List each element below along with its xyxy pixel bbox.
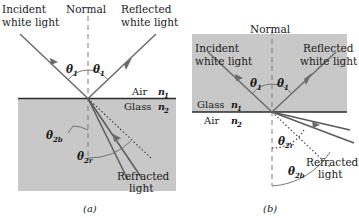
panel-b-lower-index-subscript: 2 — [236, 120, 242, 129]
panel-b: Incident white light Normal Reflected wh… — [192, 23, 359, 214]
panel-b-lower-medium-label: Air — [203, 115, 219, 126]
panel-a-lower-index-subscript: 2 — [163, 106, 169, 115]
panel-b-reflected-label-line1: Reflected — [303, 42, 354, 54]
panel-a-theta-incident-symbol: θ — [66, 63, 73, 75]
panel-b-refracted-label-line1: Refracted — [306, 156, 359, 168]
panel-b-refracted-label-line2: light — [318, 168, 343, 180]
panel-a: Incident white light Normal Reflected wh… — [2, 3, 179, 214]
panel-a-upper-index-subscript: 1 — [164, 91, 169, 100]
panel-b-theta-2r-symbol: θ — [278, 135, 285, 147]
panel-a-theta-2b-symbol: θ — [46, 129, 53, 141]
panel-b-upper-medium-label: Glass — [197, 99, 224, 110]
panel-a-incident-label-line2: white light — [2, 16, 60, 28]
panel-a-normal-label: Normal — [66, 3, 107, 15]
panel-a-theta-reflected-symbol: θ — [93, 63, 100, 75]
panel-b-normal-label: Normal — [250, 23, 291, 35]
panel-a-incident-label-line1: Incident — [2, 3, 47, 15]
panel-a-reflected-label-line2: white light — [121, 16, 179, 28]
panel-b-theta-reflected-symbol: θ — [277, 77, 284, 89]
panel-a-theta-2r-symbol: θ — [77, 150, 84, 162]
panel-a-incident-arrowhead — [50, 58, 58, 65]
panel-a-refracted-label-line2: light — [129, 182, 154, 194]
panel-a-theta-reflected-subscript: 1 — [100, 69, 105, 78]
figure-svg: Incident white light Normal Reflected wh… — [0, 0, 359, 218]
panel-b-theta-incident-subscript: 1 — [257, 83, 262, 92]
panel-b-theta-2b-symbol: θ — [288, 165, 295, 177]
panel-a-theta-incident-subscript: 1 — [73, 69, 78, 78]
optics-figure: Incident white light Normal Reflected wh… — [0, 0, 359, 218]
panel-b-theta-incident-symbol: θ — [250, 77, 257, 89]
panel-b-theta-2b-subscript: 2b — [294, 171, 305, 180]
panel-a-refracted-label-line1: Refracted — [117, 170, 170, 182]
panel-a-incident-ray — [20, 34, 88, 99]
panel-a-reflected-label-line1: Reflected — [121, 3, 172, 15]
panel-b-theta-reflected-subscript: 1 — [284, 83, 289, 92]
panel-b-letter: (b) — [263, 203, 277, 214]
panel-a-lower-medium-label: Glass — [124, 101, 151, 112]
panel-b-theta-2r-subscript: 2r — [284, 141, 295, 150]
panel-a-letter: (a) — [83, 203, 97, 214]
panel-a-upper-medium-label: Air — [131, 86, 147, 97]
panel-b-incident-label-line2: white light — [195, 55, 253, 67]
panel-b-upper-index-subscript: 1 — [237, 104, 242, 113]
panel-b-reflected-label-line2: white light — [300, 55, 358, 67]
panel-a-theta-2b-subscript: 2b — [52, 135, 63, 144]
panel-a-theta-2r-subscript: 2r — [83, 156, 94, 165]
panel-b-incident-label-line1: Incident — [195, 42, 240, 54]
